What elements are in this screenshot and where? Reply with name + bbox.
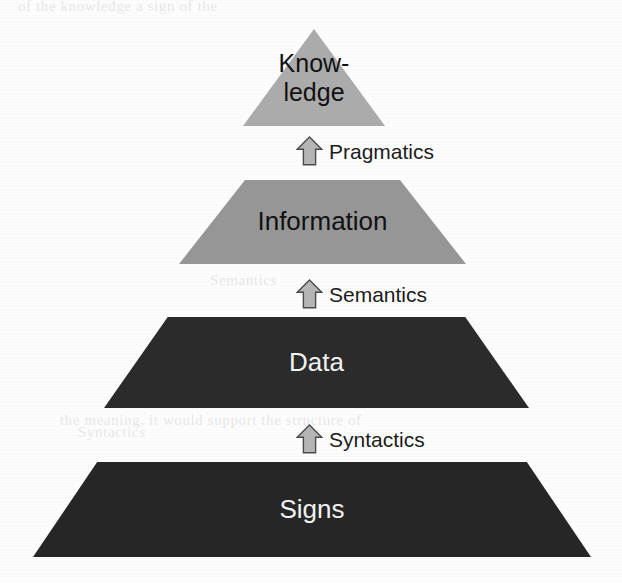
pyramid-figure: of the knowledge a sign of the Semantics…: [0, 0, 622, 583]
connector-semantics[interactable]: Semantics: [296, 279, 427, 309]
semantics-label: Semantics: [329, 284, 427, 305]
signs-label: Signs: [279, 495, 344, 525]
pyramid-level-signs[interactable]: Signs: [33, 462, 591, 557]
connector-pragmatics[interactable]: Pragmatics: [296, 136, 434, 166]
connector-syntactics[interactable]: Syntactics: [296, 424, 425, 454]
ghost-artifact-0: of the knowledge a sign of the: [18, 0, 218, 15]
up-arrow-icon: [296, 424, 323, 454]
pragmatics-label: Pragmatics: [329, 141, 434, 162]
information-label: Information: [257, 207, 387, 237]
up-arrow-icon: [296, 279, 323, 309]
ghost-artifact-2: Syntactics: [78, 424, 146, 441]
pyramid-level-data[interactable]: Data: [104, 317, 529, 408]
ghost-artifact-3: Semantics: [210, 272, 277, 289]
knowledge-label: Know- ledge: [279, 49, 350, 107]
syntactics-label: Syntactics: [329, 429, 425, 450]
data-label: Data: [289, 348, 344, 378]
pyramid-level-knowledge[interactable]: Know- ledge: [243, 29, 385, 126]
pyramid-level-information[interactable]: Information: [179, 180, 466, 264]
up-arrow-icon: [296, 136, 323, 166]
